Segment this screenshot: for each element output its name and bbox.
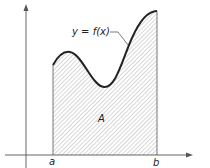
label-leader-line	[110, 32, 128, 45]
x-label-a: a	[49, 156, 55, 167]
area-under-curve-diagram: y = f(x) A a b	[0, 0, 210, 168]
y-axis-arrow-icon	[24, 4, 29, 11]
area-label: A	[97, 113, 105, 124]
x-axis-arrow-icon	[186, 153, 193, 158]
curve-label: y = f(x)	[71, 26, 110, 37]
x-label-b: b	[153, 157, 159, 168]
